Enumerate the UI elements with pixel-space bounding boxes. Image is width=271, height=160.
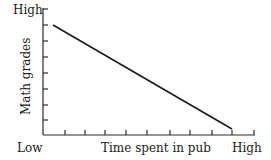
y-axis-title: Math grades xyxy=(19,45,33,115)
x-high-label: High xyxy=(232,141,262,155)
y-axis-ticks xyxy=(43,9,48,120)
chart-canvas xyxy=(0,0,271,160)
y-high-label: High xyxy=(13,3,43,17)
x-axis-ticks xyxy=(65,130,254,135)
data-line xyxy=(53,25,232,129)
x-low-label: Low xyxy=(17,141,42,155)
x-axis-title: Time spent in pub xyxy=(101,141,211,155)
